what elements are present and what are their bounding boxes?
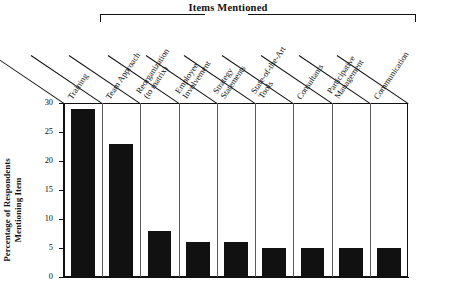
y-axis-title: Percentage of Respondents Mentioning Ite… bbox=[2, 150, 24, 270]
y-axis-tick bbox=[59, 161, 63, 162]
bar bbox=[71, 109, 95, 277]
y-axis-tick-label: 30 bbox=[31, 98, 53, 107]
plot-area bbox=[64, 103, 408, 277]
bracket-tick-right bbox=[415, 14, 416, 22]
y-axis-tick-label: 5 bbox=[31, 243, 53, 252]
bar bbox=[377, 248, 401, 277]
bar bbox=[339, 248, 363, 277]
x-axis-line bbox=[60, 277, 409, 278]
column-separator bbox=[370, 103, 371, 277]
y-axis-title-line1: Percentage of Respondents bbox=[2, 150, 13, 270]
y-axis-tick bbox=[59, 103, 63, 104]
bar bbox=[109, 144, 133, 277]
bar bbox=[186, 242, 210, 277]
column-separator bbox=[102, 103, 103, 277]
chart-figure: Items Mentioned TrainingTeam ApproachReo… bbox=[0, 0, 456, 292]
bracket-title: Items Mentioned bbox=[0, 2, 456, 13]
y-axis-tick-label: 0 bbox=[31, 272, 53, 281]
bar bbox=[224, 242, 248, 277]
y-axis-title-line2: Mentioning Item bbox=[13, 150, 24, 270]
column-separator bbox=[332, 103, 333, 277]
bar bbox=[148, 231, 172, 277]
category-divider-slash bbox=[0, 55, 65, 104]
bar bbox=[301, 248, 325, 277]
y-axis-tick bbox=[59, 277, 63, 278]
bracket-tick-left bbox=[100, 14, 101, 22]
bracket-line-left bbox=[100, 14, 205, 15]
y-axis-tick bbox=[59, 190, 63, 191]
y-axis-tick-label: 20 bbox=[31, 156, 53, 165]
y-axis-tick bbox=[59, 219, 63, 220]
bracket-line-right bbox=[248, 14, 416, 15]
column-separator bbox=[255, 103, 256, 277]
y-axis-tick bbox=[59, 248, 63, 249]
y-axis-tick bbox=[59, 132, 63, 133]
column-separator bbox=[179, 103, 180, 277]
y-axis-tick-label: 10 bbox=[31, 214, 53, 223]
column-separator bbox=[217, 103, 218, 277]
column-separator bbox=[293, 103, 294, 277]
bar bbox=[262, 248, 286, 277]
column-separator bbox=[140, 103, 141, 277]
y-axis-tick-label: 15 bbox=[31, 185, 53, 194]
y-axis-tick-label: 25 bbox=[31, 127, 53, 136]
category-labels: TrainingTeam ApproachReorganization(to m… bbox=[0, 24, 456, 104]
